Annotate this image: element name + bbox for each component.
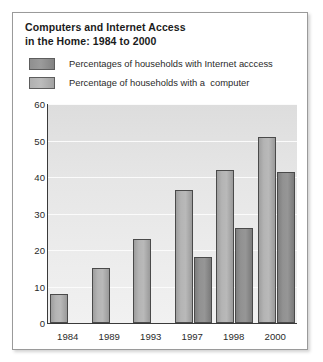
bar-computer-1984	[50, 294, 68, 323]
y-axis-tick-label: 10	[25, 281, 45, 292]
bar-internet-2000	[277, 172, 295, 323]
y-axis-tick-label: 60	[25, 99, 45, 110]
y-axis-tick-label: 40	[25, 172, 45, 183]
y-axis-tick-label: 0	[25, 318, 45, 329]
plot-area	[47, 104, 297, 324]
title-line-2: in the Home: 1984 to 2000	[25, 34, 285, 48]
bar-internet-1998	[235, 228, 253, 323]
y-axis-tick-label: 30	[25, 208, 45, 219]
bar-computer-1993	[133, 239, 151, 323]
x-axis-tick-label: 1997	[182, 331, 203, 342]
chart-card: Computers and Internet Access in the Hom…	[12, 12, 308, 350]
computer-swatch-icon	[29, 77, 55, 89]
x-axis-tick-label: 1984	[57, 331, 78, 342]
title-line-1: Computers and Internet Access	[25, 20, 285, 34]
x-axis-tick-label: 1998	[223, 331, 244, 342]
legend-label-internet: Percentages of households with Internet …	[69, 58, 273, 70]
legend-label-computer: Percentage of households with a computer	[69, 77, 249, 89]
internet-swatch-icon	[29, 58, 55, 70]
y-axis-tick-label: 20	[25, 245, 45, 256]
bar-computer-1989	[92, 268, 110, 323]
chart-title: Computers and Internet Access in the Hom…	[25, 20, 285, 48]
x-axis: 198419891993199719982000	[47, 326, 297, 342]
legend-item-internet: Percentages of households with Internet …	[29, 54, 307, 73]
x-axis-tick-label: 1993	[140, 331, 161, 342]
x-axis-tick-label: 1989	[99, 331, 120, 342]
bar-computer-1998	[216, 170, 234, 323]
bar-computer-2000	[258, 137, 276, 323]
bar-series-container	[48, 104, 297, 323]
bar-internet-1997	[194, 257, 212, 323]
x-axis-tick-label: 2000	[265, 331, 286, 342]
y-axis-tick-label: 50	[25, 135, 45, 146]
chart-legend: Percentages of households with Internet …	[29, 54, 307, 92]
legend-item-computer: Percentage of households with a computer	[29, 73, 307, 92]
bar-computer-1997	[175, 190, 193, 323]
chart-plot: 0102030405060 198419891993199719982000	[25, 104, 297, 342]
